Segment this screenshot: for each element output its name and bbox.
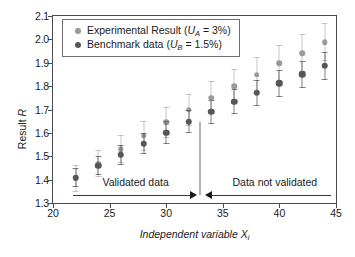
legend-u-value-b: 1.5%: [194, 38, 218, 50]
error-bar-cap: [118, 145, 124, 146]
legend-label-experimental-name: Experimental Result: [87, 24, 181, 36]
annotation-label-validated: Validated data: [102, 176, 168, 188]
error-bar-cap: [208, 100, 214, 101]
legend-u-value-a: 3%: [212, 24, 227, 36]
x-axis-tick-label: 25: [104, 207, 116, 219]
validated-range-arrow-line: [73, 195, 189, 196]
error-bar-cap: [73, 168, 79, 169]
error-bar-cap: [141, 153, 147, 154]
y-axis-tick-label: 1.4: [35, 174, 49, 186]
error-bar-cap: [299, 87, 305, 88]
data-point: [140, 140, 147, 147]
x-axis-tick-label: 35: [217, 207, 229, 219]
x-axis-tick-label: 20: [47, 207, 59, 219]
data-point: [118, 152, 125, 159]
chart-legend: Experimental Result (UA = 3%) Benchmark …: [62, 19, 240, 57]
error-bar-cap: [163, 143, 169, 144]
error-bar-cap: [118, 164, 124, 165]
data-point: [208, 109, 215, 116]
data-point: [231, 99, 238, 106]
data-point: [321, 62, 328, 69]
legend-dot: [75, 28, 81, 34]
error-bar-cap: [186, 110, 192, 111]
x-axis-title-text: Independent variable X: [140, 228, 248, 240]
y-axis-tick-label: 1.6: [35, 127, 49, 139]
data-point: [186, 118, 193, 125]
y-axis-title-symbol: R: [16, 108, 28, 116]
y-axis-tick-label: 1.5: [35, 150, 49, 162]
error-bar-cap: [141, 133, 147, 134]
validated-range-arrow-head: [190, 191, 197, 199]
legend-marker-experimental-icon: [69, 28, 87, 34]
y-axis-tick-label: 2.1: [35, 10, 49, 22]
error-bar-cap: [231, 113, 237, 114]
legend-item-experimental: Experimental Result (UA = 3%): [69, 24, 231, 38]
legend-label-benchmark: Benchmark data (UB = 1.5%): [87, 38, 222, 52]
y-axis-tick-label: 2.0: [35, 33, 49, 45]
not-validated-range-arrow-line: [211, 195, 332, 196]
error-bar-cap: [163, 121, 169, 122]
data-point: [95, 162, 102, 169]
x-axis-title: Independent variable Xi: [52, 228, 337, 242]
y-axis-title: Result R: [16, 108, 28, 148]
legend-dot: [75, 42, 82, 49]
x-axis-tick-label: 30: [160, 207, 172, 219]
x-axis-title-subscript: i: [248, 233, 250, 242]
legend-u-subscript-b: B: [177, 43, 182, 52]
error-bar-cap: [254, 105, 260, 106]
error-bar-cap: [95, 174, 101, 175]
x-axis-tick-label: 45: [330, 207, 342, 219]
y-axis-tick-label: 1.9: [35, 57, 49, 69]
data-point: [299, 71, 306, 78]
error-bar-cap: [276, 96, 282, 97]
legend-item-benchmark: Benchmark data (UB = 1.5%): [69, 38, 231, 52]
y-axis-tick-label: 1.8: [35, 80, 49, 92]
error-bar-cap: [322, 52, 328, 53]
error-bar-cap: [276, 70, 282, 71]
error-bar-cap: [299, 61, 305, 62]
x-axis-tick-label: 40: [274, 207, 286, 219]
error-bar-cap: [254, 80, 260, 81]
data-point: [254, 89, 261, 96]
legend-u-subscript-a: A: [195, 29, 200, 38]
data-point: [163, 129, 170, 136]
error-bar-cap: [95, 156, 101, 157]
data-point: [72, 175, 79, 182]
legend-marker-benchmark-icon: [69, 42, 87, 49]
chart-figure: Result R Independent variable Xi Validat…: [0, 0, 355, 257]
error-bar-cap: [322, 79, 328, 80]
error-bar-cap: [73, 186, 79, 187]
validation-divider-line: [200, 122, 201, 194]
legend-u-symbol-a: U: [187, 24, 195, 36]
legend-label-benchmark-name: Benchmark data: [87, 38, 163, 50]
legend-label-experimental: Experimental Result (UA = 3%): [87, 24, 231, 38]
y-axis-title-text: Result: [16, 116, 28, 149]
error-bar-cap: [208, 123, 214, 124]
y-axis-tick-label: 1.7: [35, 104, 49, 116]
error-bar-cap: [186, 132, 192, 133]
not-validated-range-arrow-head: [205, 191, 212, 199]
annotation-label-not-validated: Data not validated: [233, 176, 318, 188]
data-point: [276, 80, 283, 87]
error-bar-cap: [231, 89, 237, 90]
